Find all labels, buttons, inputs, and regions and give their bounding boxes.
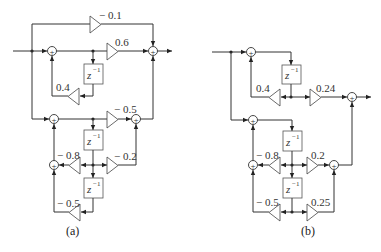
gain-label: 0.2 bbox=[311, 149, 325, 161]
wire bbox=[339, 102, 353, 165]
delay-label: z bbox=[86, 183, 92, 195]
gain-label: − 0.5 bbox=[256, 196, 279, 208]
caption-a: (a) bbox=[66, 224, 79, 238]
adder-symbol: + bbox=[250, 161, 255, 171]
delay-label: z bbox=[285, 183, 291, 195]
adder-symbol: + bbox=[250, 116, 255, 126]
gain-label: − 0.5 bbox=[57, 197, 80, 209]
delay-exponent: −1 bbox=[93, 180, 101, 188]
gain-label: − 0.8 bbox=[256, 149, 279, 161]
adder-symbol: + bbox=[349, 93, 354, 103]
delay-label: z bbox=[285, 136, 291, 148]
wire bbox=[231, 52, 248, 120]
delay-exponent: −1 bbox=[291, 66, 299, 74]
caption-b: (b) bbox=[301, 224, 315, 238]
adder-symbol: + bbox=[150, 47, 155, 57]
gain-label: 0.4 bbox=[56, 81, 70, 93]
wire bbox=[141, 56, 154, 119]
adder-symbol: + bbox=[51, 115, 56, 125]
wire bbox=[258, 120, 293, 131]
adder-symbol: + bbox=[49, 47, 54, 57]
wire bbox=[256, 52, 292, 65]
gain-label: 0.4 bbox=[256, 82, 270, 94]
diagram-a: − 0.1 + 0.6 z −1 0.4 + + − 0.5 + bbox=[13, 9, 172, 238]
adder-symbol: + bbox=[248, 48, 253, 58]
delay-exponent: −1 bbox=[292, 180, 300, 188]
wire bbox=[32, 51, 49, 119]
delay-exponent: −1 bbox=[93, 66, 101, 74]
diagram-b: + z −1 0.4 0.24 + + z −1 − 0.8 + bbox=[212, 48, 371, 239]
gain-label: − 0.2 bbox=[114, 150, 137, 162]
delay-label: z bbox=[86, 69, 92, 81]
adder-symbol: + bbox=[51, 161, 56, 171]
gain-amp-0.4 bbox=[269, 89, 280, 106]
delay-label: z bbox=[284, 69, 290, 81]
delay-label: z bbox=[86, 135, 92, 147]
delay-exponent: −1 bbox=[292, 133, 300, 141]
gain-label: 0.25 bbox=[311, 196, 331, 208]
adder-symbol: + bbox=[133, 115, 138, 125]
wire bbox=[81, 198, 93, 212]
wire bbox=[32, 24, 90, 51]
gain-label: 0.6 bbox=[115, 36, 129, 48]
filter-diagrams: − 0.1 + 0.6 z −1 0.4 + + − 0.5 + bbox=[0, 0, 381, 252]
adder-symbol: + bbox=[331, 161, 336, 171]
gain-label: 0.24 bbox=[316, 82, 336, 94]
delay-exponent: −1 bbox=[93, 132, 101, 140]
wire bbox=[80, 84, 93, 96]
gain-label: − 0.1 bbox=[99, 9, 122, 21]
gain-label: − 0.8 bbox=[57, 149, 80, 161]
gain-label: − 0.5 bbox=[114, 103, 137, 115]
